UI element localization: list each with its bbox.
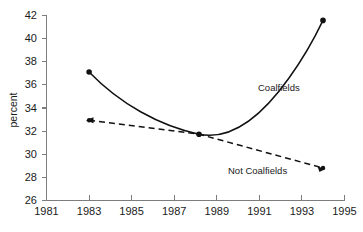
y-tick-label-30: 30 — [25, 148, 37, 160]
marker-coalfields-1983 — [86, 69, 92, 75]
chart-container: 42 40 38 36 34 32 30 28 26 1981 1983 198… — [0, 0, 363, 232]
x-tick-label-1981: 1981 — [34, 205, 58, 217]
marker-coalfields-1994 — [320, 18, 326, 24]
x-tick-label-1995: 1995 — [332, 205, 356, 217]
not-coalfields-curve — [89, 120, 323, 168]
x-tick-label-1989: 1989 — [205, 205, 229, 217]
x-tick-label-1987: 1987 — [162, 205, 186, 217]
x-tick-label-1991: 1991 — [247, 205, 271, 217]
y-tick-label-38: 38 — [25, 55, 37, 67]
y-tick-label-42: 42 — [25, 9, 37, 21]
data-markers — [86, 18, 326, 171]
y-tick-label-36: 36 — [25, 78, 37, 90]
y-axis-ticks — [42, 16, 47, 201]
y-tick-label-40: 40 — [25, 32, 37, 44]
x-tick-label-1993: 1993 — [290, 205, 314, 217]
coalfields-curve — [89, 20, 323, 135]
line-chart: 42 40 38 36 34 32 30 28 26 1981 1983 198… — [0, 0, 363, 232]
series-label-coalfields: Coalfields — [258, 82, 300, 93]
x-axis-ticks — [47, 195, 302, 201]
marker-crossing-1988 — [196, 131, 202, 137]
dashed-series-arrow-caps — [86, 117, 326, 172]
y-tick-label-28: 28 — [25, 171, 37, 183]
y-tick-label-34: 34 — [25, 102, 37, 114]
y-axis-title: percent — [7, 92, 19, 127]
x-tick-label-1983: 1983 — [77, 205, 101, 217]
x-tick-label-1985: 1985 — [119, 205, 143, 217]
series-label-not-coalfields: Not Coalfields — [228, 165, 287, 176]
y-tick-label-32: 32 — [25, 125, 37, 137]
